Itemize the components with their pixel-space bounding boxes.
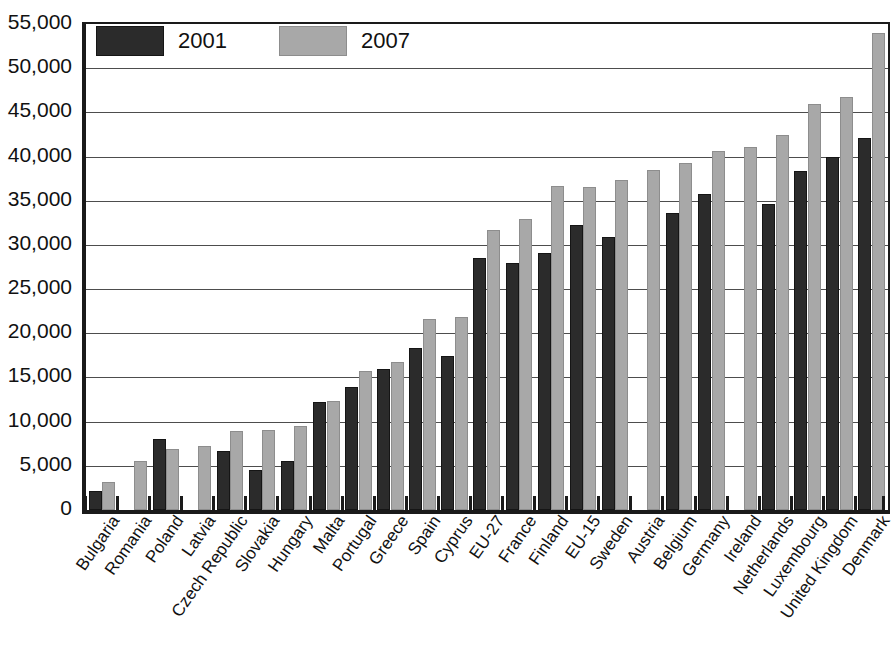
bar-group xyxy=(246,24,278,510)
x-axis-tick xyxy=(212,496,215,512)
bar-2007 xyxy=(519,219,532,510)
x-axis-tick xyxy=(84,496,87,512)
y-axis-tick-label: 0 xyxy=(60,496,72,520)
bar-2007 xyxy=(776,135,789,510)
x-axis-tick xyxy=(726,496,729,512)
bar-2007 xyxy=(423,319,436,510)
bar-group xyxy=(407,24,439,510)
x-axis-tick xyxy=(244,496,247,512)
x-axis-tick xyxy=(116,496,119,512)
chart-legend: 2001 2007 xyxy=(96,22,462,60)
bar-2007 xyxy=(647,170,660,510)
y-axis-tick-label: 45,000 xyxy=(8,98,72,122)
x-axis-tick xyxy=(822,496,825,512)
bar-group xyxy=(311,24,343,510)
bar-group xyxy=(760,24,792,510)
x-axis-tick xyxy=(501,496,504,512)
legend-swatch-2001-icon xyxy=(96,26,164,56)
bar-2001 xyxy=(858,138,871,510)
x-axis-tick xyxy=(180,496,183,512)
bar-group xyxy=(439,24,471,510)
bar-2001 xyxy=(826,157,839,510)
bar-group xyxy=(503,24,535,510)
x-axis-tick xyxy=(533,496,536,512)
y-axis: 55,00050,00045,00040,00035,00030,00025,0… xyxy=(0,0,78,520)
bar-group xyxy=(696,24,728,510)
y-axis-tick-label: 30,000 xyxy=(8,231,72,255)
x-axis-tick xyxy=(629,496,632,512)
x-axis-tick xyxy=(437,496,440,512)
bar-2001 xyxy=(377,369,390,510)
x-axis-tick xyxy=(758,496,761,512)
legend-item-2007: 2007 xyxy=(279,26,410,56)
bar-group xyxy=(567,24,599,510)
bar-2001 xyxy=(538,253,551,510)
x-axis-tick xyxy=(405,496,408,512)
bar-chart: 55,00050,00045,00040,00035,00030,00025,0… xyxy=(0,0,891,665)
legend-item-2001: 2001 xyxy=(96,26,227,56)
bar-2001 xyxy=(506,263,519,510)
x-axis-tick xyxy=(469,496,472,512)
x-axis-tick xyxy=(597,496,600,512)
bar-group xyxy=(728,24,760,510)
legend-label-2001: 2001 xyxy=(178,28,227,54)
y-axis-tick-label: 40,000 xyxy=(8,143,72,167)
x-axis-tick xyxy=(694,496,697,512)
x-axis-tick xyxy=(373,496,376,512)
x-axis-tick xyxy=(661,496,664,512)
bar-2001 xyxy=(345,387,358,510)
x-axis-ticks xyxy=(82,494,884,512)
bar-group xyxy=(631,24,663,510)
bar-2001 xyxy=(794,171,807,510)
bar-2007 xyxy=(583,187,596,510)
x-axis-tick xyxy=(565,496,568,512)
y-axis-tick-label: 15,000 xyxy=(8,363,72,387)
legend-swatch-2007-icon xyxy=(279,26,347,56)
bar-2007 xyxy=(551,186,564,510)
bar-2007 xyxy=(455,317,468,510)
bar-group xyxy=(118,24,150,510)
bar-2007 xyxy=(391,362,404,510)
x-axis-tick xyxy=(341,496,344,512)
bar-group xyxy=(375,24,407,510)
plot-area xyxy=(82,22,890,514)
bar-2007 xyxy=(359,371,372,510)
bar-2007 xyxy=(679,163,692,510)
y-axis-tick-label: 5,000 xyxy=(19,452,72,476)
y-axis-tick-label: 55,000 xyxy=(8,10,72,34)
bar-2007 xyxy=(712,151,725,510)
x-axis-tick xyxy=(276,496,279,512)
bar-group xyxy=(86,24,118,510)
bar-group xyxy=(471,24,503,510)
y-axis-tick-label: 50,000 xyxy=(8,54,72,78)
x-axis-labels: BulgariaRomaniaPolandLatviaCzech Republi… xyxy=(82,512,884,665)
bar-group xyxy=(343,24,375,510)
bar-2001 xyxy=(570,225,583,510)
x-axis-tick xyxy=(854,496,857,512)
bar-2001 xyxy=(698,194,711,510)
bar-group xyxy=(535,24,567,510)
x-axis-tick xyxy=(148,496,151,512)
bar-2001 xyxy=(409,348,422,510)
bar-2007 xyxy=(744,147,757,510)
y-axis-tick-label: 20,000 xyxy=(8,319,72,343)
bar-group xyxy=(278,24,310,510)
bar-2001 xyxy=(473,258,486,510)
bar-group xyxy=(214,24,246,510)
bar-2007 xyxy=(487,230,500,510)
legend-label-2007: 2007 xyxy=(361,28,410,54)
bar-2001 xyxy=(602,237,615,510)
bar-group xyxy=(150,24,182,510)
bar-group xyxy=(182,24,214,510)
y-axis-tick-label: 35,000 xyxy=(8,187,72,211)
bar-group xyxy=(599,24,631,510)
bar-2001 xyxy=(666,213,679,510)
bar-2007 xyxy=(840,97,853,510)
y-axis-tick-label: 25,000 xyxy=(8,275,72,299)
x-axis-tick xyxy=(882,496,885,512)
bars-layer xyxy=(86,24,888,510)
bar-2007 xyxy=(872,33,885,510)
x-axis-tick xyxy=(790,496,793,512)
bar-2007 xyxy=(808,104,821,510)
y-axis-tick-label: 10,000 xyxy=(8,408,72,432)
